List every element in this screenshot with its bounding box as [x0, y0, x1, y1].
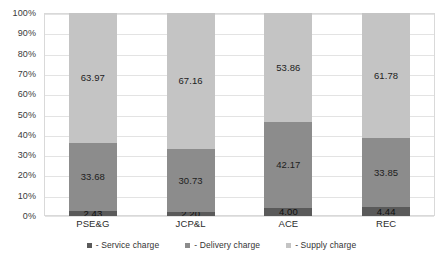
bar-segment-value-label: 33.68	[81, 172, 105, 182]
bar-segment-value-label: 61.78	[374, 71, 398, 81]
bar-segment[interactable]: 2.20	[167, 212, 215, 216]
bar-segment-value-label: 63.97	[81, 73, 105, 83]
bar-segment[interactable]: 53.86	[264, 13, 312, 122]
bar-segment[interactable]: 33.68	[69, 143, 117, 211]
bars-layer: 63.9733.682.4367.1630.732.2053.8642.174.…	[44, 13, 435, 216]
bar-segment-value-label: 2.20	[181, 212, 200, 216]
y-axis-tick-label: 40%	[18, 130, 36, 140]
x-axis-tick-label: PSE&G	[76, 218, 109, 229]
y-axis-tick-label: 100%	[13, 8, 36, 18]
y-axis-tick-label: 80%	[18, 49, 36, 59]
y-axis-tick-label: 10%	[18, 191, 36, 201]
legend-swatch-icon	[286, 243, 291, 248]
legend-item[interactable]: - Delivery charge	[185, 240, 260, 250]
x-axis-tick-label: ACE	[278, 218, 298, 229]
legend-item[interactable]: - Service charge	[87, 240, 160, 250]
x-axis-tick-label: REC	[376, 218, 396, 229]
bar-segment[interactable]: 61.78	[362, 13, 410, 138]
legend-label: - Supply charge	[295, 240, 356, 250]
bar-segment[interactable]: 4.00	[264, 208, 312, 216]
y-axis-tick-label: 60%	[18, 89, 36, 99]
bar-stack[interactable]: 53.8642.174.00	[264, 13, 312, 216]
stacked-bar-chart: 100%90%80%70%60%50%40%30%20%10%0% 63.973…	[0, 0, 443, 261]
y-axis: 100%90%80%70%60%50%40%30%20%10%0%	[0, 13, 40, 216]
legend-label: - Service charge	[96, 240, 160, 250]
x-axis-tick-label: JCP&L	[176, 218, 206, 229]
legend-item[interactable]: - Supply charge	[286, 240, 356, 250]
bar-segment[interactable]: 4.44	[362, 207, 410, 216]
bar-segment[interactable]: 33.85	[362, 138, 410, 207]
bar-segment-value-label: 4.00	[279, 208, 298, 216]
y-axis-tick-label: 70%	[18, 69, 36, 79]
bar-segment[interactable]: 2.43	[69, 211, 117, 216]
legend-label: - Delivery charge	[194, 240, 260, 250]
bar-segment-value-label: 53.86	[276, 63, 300, 73]
bar-segment[interactable]: 42.17	[264, 122, 312, 208]
gridline	[45, 216, 434, 217]
bar-stack[interactable]: 61.7833.854.44	[362, 13, 410, 216]
bar-segment-value-label: 30.73	[178, 176, 202, 186]
y-axis-tick-label: 90%	[18, 28, 36, 38]
x-axis: PSE&GJCP&LACEREC	[44, 218, 435, 234]
bar-segment[interactable]: 67.16	[167, 13, 215, 149]
legend-swatch-icon	[87, 243, 92, 248]
bar-segment-value-label: 67.16	[178, 76, 202, 86]
bar-stack[interactable]: 63.9733.682.43	[69, 13, 117, 216]
y-axis-tick-label: 30%	[18, 150, 36, 160]
bar-segment-value-label: 2.43	[83, 211, 102, 216]
y-axis-tick-label: 20%	[18, 170, 36, 180]
y-axis-tick-label: 50%	[18, 110, 36, 120]
bar-stack[interactable]: 67.1630.732.20	[167, 13, 215, 216]
bar-segment[interactable]: 63.97	[69, 13, 117, 143]
bar-segment-value-label: 33.85	[374, 168, 398, 178]
bar-segment[interactable]: 30.73	[167, 149, 215, 211]
bar-segment-value-label: 42.17	[276, 160, 300, 170]
chart-legend: - Service charge- Delivery charge- Suppl…	[0, 240, 443, 250]
legend-swatch-icon	[185, 243, 190, 248]
bar-segment-value-label: 4.44	[377, 207, 396, 216]
y-axis-tick-label: 0%	[23, 211, 36, 221]
